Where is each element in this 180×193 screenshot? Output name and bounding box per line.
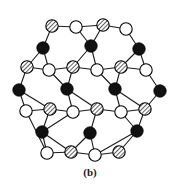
lattice-node-open (41, 147, 53, 159)
lattice-node-hatched (113, 146, 125, 158)
lattice-node-filled (84, 127, 96, 139)
lattice-node-filled (61, 83, 73, 95)
lattice-node-filled (36, 126, 48, 138)
lattice-node-filled (154, 85, 166, 97)
lattice-node-hatched (46, 20, 58, 32)
lattice-node-open (89, 149, 101, 161)
lattice-node-open (115, 106, 127, 118)
node-layer (13, 19, 166, 161)
lattice-node-open (67, 106, 79, 118)
lattice-node-hatched (67, 61, 79, 73)
lattice-node-filled (133, 43, 145, 55)
lattice-node-open (20, 105, 32, 117)
lattice-node-open (43, 64, 55, 76)
lattice-node-hatched (97, 19, 109, 31)
lattice-node-filled (109, 83, 121, 95)
lattice-node-open (140, 64, 152, 76)
lattice-node-hatched (139, 103, 151, 115)
figure-container: (b) (0, 0, 180, 193)
lattice-node-hatched (115, 61, 127, 73)
lattice-node-open (70, 21, 82, 33)
lattice-node-filled (85, 40, 97, 52)
lattice-node-open (91, 64, 103, 76)
lattice-node-hatched (65, 146, 77, 158)
figure-caption: (b) (0, 166, 180, 178)
lattice-node-filled (13, 84, 25, 96)
lattice-node-hatched (21, 61, 33, 73)
lattice-node-hatched (44, 103, 56, 115)
lattice-node-open (120, 23, 132, 35)
lattice-node-filled (131, 125, 143, 137)
lattice-node-hatched (91, 103, 103, 115)
lattice-network-diagram (0, 0, 180, 170)
lattice-node-filled (37, 42, 49, 54)
